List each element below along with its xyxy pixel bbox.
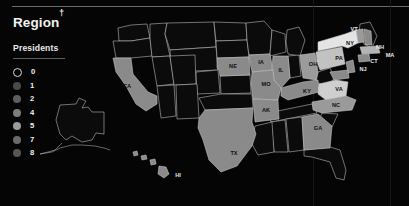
state-label-VT: VT — [350, 26, 358, 32]
state-NH[interactable] — [364, 29, 372, 45]
state-label-MO: MO — [261, 81, 271, 87]
legend-swatch-icon — [13, 109, 21, 117]
state-MN[interactable] — [246, 21, 272, 55]
state-CA[interactable] — [113, 58, 157, 111]
legend-swatch-icon — [13, 95, 21, 103]
legend-item-list: 0124578 — [13, 66, 93, 161]
state-AZ[interactable] — [157, 85, 176, 118]
state-HI[interactable] — [133, 151, 169, 178]
state-CO[interactable] — [196, 70, 220, 94]
state-SD[interactable] — [216, 40, 249, 58]
state-label-NC: NC — [332, 102, 340, 108]
title-dagger: † — [59, 8, 64, 18]
state-LA[interactable] — [252, 122, 274, 155]
state-label-IA: IA — [258, 59, 264, 65]
state-label-CA: CA — [123, 83, 131, 89]
state-OK[interactable] — [199, 94, 253, 110]
state-label-IL: IL — [279, 67, 285, 73]
legend-item-0[interactable]: 0 — [13, 66, 93, 80]
state-label-NJ: NJ — [359, 66, 366, 72]
legend-item-7[interactable]: 7 — [13, 133, 93, 147]
state-label-AK-arkansas: AK — [262, 107, 270, 113]
page-title: Region† — [13, 11, 93, 30]
legend-item-4[interactable]: 4 — [13, 106, 93, 120]
legend-item-1[interactable]: 1 — [13, 79, 93, 93]
state-label-NY: NY — [346, 40, 354, 46]
legend-item-2[interactable]: 2 — [13, 93, 93, 107]
state-label-CT: CT — [370, 58, 378, 64]
legend-item-label: 2 — [30, 95, 34, 103]
legend-item-label: 0 — [31, 68, 35, 76]
state-FL[interactable] — [304, 147, 346, 180]
legend-swatch-icon — [13, 122, 21, 130]
legend-swatch-icon — [13, 82, 21, 90]
page-title-text: Region — [13, 15, 59, 30]
state-label-MA: MA — [386, 52, 395, 58]
state-OR[interactable] — [113, 38, 152, 58]
state-KY[interactable] — [281, 80, 319, 100]
legend-item-label: 8 — [30, 149, 34, 157]
state-label-NE: NE — [229, 63, 237, 69]
state-TX[interactable] — [198, 108, 256, 172]
legend-swatch-icon — [13, 149, 21, 157]
legend-item-label: 5 — [30, 122, 34, 130]
state-KS[interactable] — [220, 75, 251, 94]
state-label-NH: NH — [376, 44, 384, 50]
state-WI[interactable] — [270, 30, 286, 56]
state-NM[interactable] — [176, 84, 199, 119]
state-MI[interactable] — [286, 27, 305, 56]
state-label-VA: VA — [335, 86, 342, 92]
region-map-panel: CA NE IA IL MO AK TX OH PA NY VT NH MA C… — [0, 0, 409, 206]
state-ND[interactable] — [214, 22, 247, 41]
state-label-OH: OH — [309, 61, 317, 67]
state-UT[interactable] — [170, 55, 196, 85]
legend-divider — [13, 58, 65, 59]
legend-panel: Region† Presidents 0124578 — [13, 11, 93, 160]
legend-swatch-icon — [13, 136, 21, 144]
legend-item-8[interactable]: 8 — [13, 147, 93, 161]
state-label-GA: GA — [314, 125, 322, 131]
state-MT[interactable] — [165, 22, 216, 50]
legend-swatch-icon — [13, 68, 22, 77]
state-label-TX: TX — [230, 150, 237, 156]
legend-item-label: 4 — [30, 109, 34, 117]
legend-item-5[interactable]: 5 — [13, 120, 93, 134]
state-label-HI: HI — [175, 172, 181, 178]
state-label-PA: PA — [335, 55, 342, 61]
state-CT[interactable] — [358, 54, 370, 62]
state-WA[interactable] — [118, 24, 150, 41]
legend-item-label: 1 — [30, 82, 34, 90]
state-AL[interactable] — [286, 117, 304, 152]
legend-item-label: 7 — [30, 136, 34, 144]
state-label-KY: KY — [303, 88, 311, 94]
legend-title: Presidents — [13, 43, 93, 53]
